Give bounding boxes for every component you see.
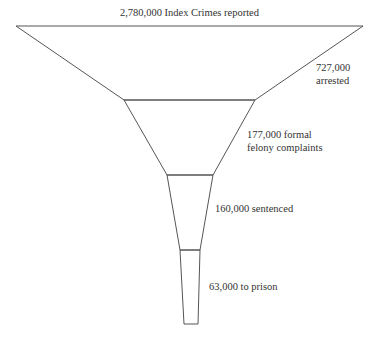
funnel-segment-complaints: [167, 175, 213, 250]
label-reported-text: 2,780,000 Index Crimes reported: [0, 6, 379, 19]
funnel-segment-reported: [16, 26, 363, 100]
funnel-segment-arrested: [124, 100, 255, 175]
label-complaints-text: felony complaints: [247, 141, 323, 154]
label-arrested-value: 727,000: [316, 61, 350, 74]
label-reported: 2,780,000 Index Crimes reported: [0, 6, 379, 19]
funnel-diagram: [0, 0, 379, 339]
funnel-segment-sentenced: [180, 250, 200, 324]
label-prison-text: 63,000 to prison: [209, 280, 278, 293]
label-complaints-value: 177,000 formal: [247, 128, 323, 141]
label-complaints: 177,000 formal felony complaints: [247, 128, 323, 154]
label-arrested-text: arrested: [316, 74, 350, 87]
label-prison: 63,000 to prison: [209, 280, 278, 293]
label-arrested: 727,000 arrested: [316, 61, 350, 87]
label-sentenced: 160,000 sentenced: [215, 202, 293, 215]
label-sentenced-text: 160,000 sentenced: [215, 202, 293, 215]
